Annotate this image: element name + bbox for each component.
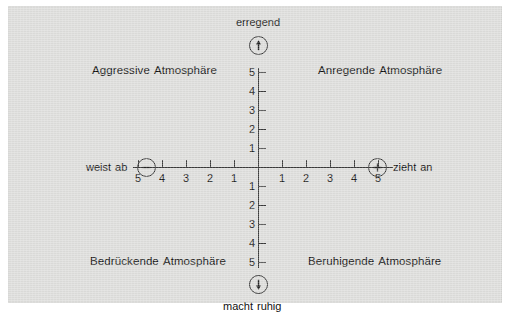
y-tick-up-3 (259, 110, 266, 111)
x-label-left-4: 4 (155, 173, 169, 184)
axis-pole-label-top: erregend (236, 16, 280, 28)
plus-circle-icon (368, 158, 387, 177)
y-tick-up-2 (259, 129, 266, 130)
y-label-down-3: 3 (241, 219, 255, 230)
x-tick-left-3 (186, 160, 187, 167)
axis-pole-label-left: weistab (86, 161, 127, 173)
quadrant-label-top-left-word1: Aggressive (92, 64, 150, 76)
y-label-up-1: 1 (241, 143, 255, 154)
y-tick-up-5 (259, 72, 266, 73)
axis-pole-label-right: ziehtan (393, 161, 433, 173)
quadrant-label-top-left: AggressiveAtmosphäre (92, 64, 217, 76)
y-label-up-4: 4 (241, 86, 255, 97)
y-label-up-3: 3 (241, 105, 255, 116)
axis-pole-label-left-word2: ab (115, 161, 127, 173)
quadrant-label-top-right-word2: Atmosphäre (379, 64, 442, 76)
x-tick-left-1 (234, 160, 235, 167)
axis-pole-label-left-word1: weist (86, 161, 111, 173)
x-label-right-3: 3 (323, 173, 337, 184)
x-label-right-4: 4 (347, 173, 361, 184)
chart-panel: 5 4 3 2 1 1 2 3 4 5 5 4 3 2 1 1 2 3 4 5 (8, 6, 502, 303)
quadrant-label-bottom-right: BeruhigendeAtmosphäre (308, 255, 441, 267)
x-tick-left-2 (210, 160, 211, 167)
quadrant-label-top-right: AnregendeAtmosphäre (318, 64, 442, 76)
y-label-down-5: 5 (241, 257, 255, 268)
axis-pole-label-right-word2: an (420, 161, 432, 173)
y-tick-up-1 (259, 148, 266, 149)
quadrant-label-top-right-word1: Anregende (318, 64, 375, 76)
y-tick-down-4 (259, 243, 266, 244)
y-tick-down-2 (259, 205, 266, 206)
y-label-up-5: 5 (241, 67, 255, 78)
x-label-left-3: 3 (179, 173, 193, 184)
axis-pole-label-bottom: machtruhig (223, 300, 281, 312)
y-tick-down-5 (259, 262, 266, 263)
y-tick-down-3 (259, 224, 266, 225)
x-tick-right-4 (354, 160, 355, 167)
arrow-down-circle-icon (249, 275, 268, 294)
x-label-right-2: 2 (299, 173, 313, 184)
quadrant-label-top-left-word2: Atmosphäre (154, 64, 217, 76)
y-label-down-4: 4 (241, 238, 255, 249)
x-tick-right-3 (330, 160, 331, 167)
arrow-up-circle-icon (249, 36, 268, 55)
axis-pole-label-right-word1: zieht (393, 161, 416, 173)
x-label-right-1: 1 (275, 173, 289, 184)
y-label-up-2: 2 (241, 124, 255, 135)
x-tick-right-1 (282, 160, 283, 167)
quadrant-label-bottom-right-word1: Beruhigende (308, 255, 374, 267)
y-tick-down-1 (259, 186, 266, 187)
horizontal-axis (133, 167, 393, 168)
y-label-down-2: 2 (241, 200, 255, 211)
quadrant-label-bottom-right-word2: Atmosphäre (378, 255, 441, 267)
x-tick-left-4 (162, 160, 163, 167)
x-label-left-2: 2 (203, 173, 217, 184)
axis-pole-label-bottom-word1: macht (223, 300, 253, 312)
axis-pole-label-bottom-word2: ruhig (257, 300, 281, 312)
quadrant-label-bottom-left: BedrückendeAtmosphäre (90, 255, 226, 267)
quadrant-plot: 5 4 3 2 1 1 2 3 4 5 5 4 3 2 1 1 2 3 4 5 (8, 6, 502, 303)
minus-circle-icon (137, 158, 156, 177)
quadrant-label-bottom-left-word1: Bedrückende (90, 255, 159, 267)
quadrant-label-bottom-left-word2: Atmosphäre (163, 255, 226, 267)
vertical-axis (258, 68, 259, 268)
y-tick-up-4 (259, 91, 266, 92)
x-tick-right-2 (306, 160, 307, 167)
y-label-down-1: 1 (241, 181, 255, 192)
x-label-left-1: 1 (227, 173, 241, 184)
